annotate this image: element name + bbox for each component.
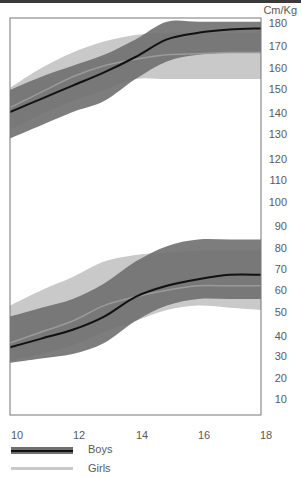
y-tick-label: 160 bbox=[269, 62, 287, 74]
x-tick-label: 18 bbox=[260, 429, 272, 441]
y-tick-label: 30 bbox=[275, 350, 287, 362]
percentile-bands bbox=[10, 20, 261, 362]
y-tick-label: 120 bbox=[269, 153, 287, 165]
y-tick-label: 40 bbox=[275, 330, 287, 342]
y-tick-label: 110 bbox=[269, 174, 287, 186]
x-tick-label: 14 bbox=[136, 429, 148, 441]
legend-label-boys: Boys bbox=[88, 443, 112, 455]
legend-swatch-boys-line bbox=[11, 450, 73, 452]
y-tick-label: 80 bbox=[275, 242, 287, 254]
y-tick-label: 10 bbox=[275, 393, 287, 405]
y-tick-label: 50 bbox=[275, 306, 287, 318]
legend-swatch-girls bbox=[11, 467, 73, 470]
y-tick-label: 180 bbox=[269, 17, 287, 29]
y-tick-label: 70 bbox=[275, 263, 287, 275]
y-tick-label: 150 bbox=[269, 83, 287, 95]
y-tick-label: 60 bbox=[275, 284, 287, 296]
y-tick-label: 100 bbox=[269, 196, 287, 208]
y-axis-unit-label: Cm/Kg bbox=[263, 4, 297, 16]
y-tick-label: 170 bbox=[269, 40, 287, 52]
growth-chart-plot bbox=[0, 0, 301, 478]
legend-item-boys: Boys bbox=[11, 447, 171, 461]
x-tick-label: 12 bbox=[73, 429, 85, 441]
y-tick-label: 140 bbox=[269, 107, 287, 119]
legend-item-girls: Girls bbox=[11, 466, 171, 478]
y-tick-label: 130 bbox=[269, 128, 287, 140]
y-tick-label: 90 bbox=[275, 220, 287, 232]
y-tick-label: 20 bbox=[275, 372, 287, 384]
x-tick-label: 10 bbox=[11, 429, 23, 441]
legend-label-girls: Girls bbox=[88, 462, 111, 474]
x-tick-label: 16 bbox=[198, 429, 210, 441]
